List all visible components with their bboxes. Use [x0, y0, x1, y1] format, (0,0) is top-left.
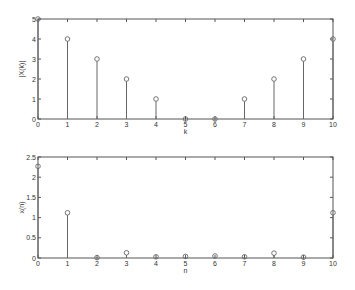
x-tick-label: 9	[302, 121, 306, 128]
x-axis-label: n	[184, 267, 188, 274]
x-tick-label: 4	[154, 121, 158, 128]
stem-marker	[301, 57, 306, 62]
x-tick-label: 3	[125, 260, 129, 267]
stem-plots: 012345678910012345k|X(k)| 01234567891000…	[0, 0, 355, 290]
x-tick-label: 10	[329, 260, 337, 267]
stem-marker	[272, 251, 277, 256]
y-tick-label: 1	[32, 96, 36, 103]
figure: 012345678910012345k|X(k)| 01234567891000…	[0, 0, 355, 290]
x-tick-label: 1	[66, 121, 70, 128]
x-axis-label: k	[184, 128, 188, 135]
stem-marker	[272, 77, 277, 82]
x-tick-label: 2	[95, 260, 99, 267]
stem-marker	[95, 57, 100, 62]
axes-box	[38, 157, 333, 258]
x-tick-label: 0	[36, 121, 40, 128]
y-tick-label: 0	[32, 116, 36, 123]
time-signal-plot: 01234567891000.511.522.5nx(n)	[18, 154, 337, 275]
stem-marker	[65, 37, 70, 42]
y-tick-label: 1.5	[26, 194, 36, 201]
x-tick-label: 5	[184, 121, 188, 128]
stem-marker	[242, 97, 247, 102]
x-tick-label: 6	[213, 121, 217, 128]
x-tick-label: 7	[243, 260, 247, 267]
x-tick-label: 2	[95, 121, 99, 128]
x-tick-label: 8	[272, 121, 276, 128]
y-tick-label: 0.5	[26, 234, 36, 241]
x-tick-label: 8	[272, 260, 276, 267]
stem-marker	[65, 210, 70, 215]
x-tick-label: 6	[213, 260, 217, 267]
x-tick-label: 5	[184, 260, 188, 267]
y-tick-label: 2	[32, 76, 36, 83]
x-tick-label: 4	[154, 260, 158, 267]
x-tick-label: 9	[302, 260, 306, 267]
x-tick-label: 7	[243, 121, 247, 128]
y-tick-label: 2	[32, 174, 36, 181]
y-tick-label: 1	[32, 214, 36, 221]
y-axis-label: x(n)	[18, 201, 26, 213]
axes-box	[38, 19, 333, 119]
y-tick-label: 2.5	[26, 154, 36, 161]
y-axis-label: |X(k)|	[18, 61, 26, 78]
x-tick-label: 3	[125, 121, 129, 128]
x-tick-label: 1	[66, 260, 70, 267]
x-tick-label: 10	[329, 121, 337, 128]
y-tick-label: 0	[32, 255, 36, 262]
y-tick-label: 3	[32, 56, 36, 63]
stem-marker	[154, 97, 159, 102]
stem-marker	[124, 77, 129, 82]
magnitude-spectrum-plot: 012345678910012345k|X(k)|	[18, 16, 337, 136]
stem-marker	[124, 250, 129, 255]
y-tick-label: 4	[32, 36, 36, 43]
x-tick-label: 0	[36, 260, 40, 267]
